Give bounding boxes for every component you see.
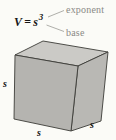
cube-diagram bbox=[0, 0, 116, 140]
exponent-connector-line bbox=[48, 11, 64, 18]
volume-of-cube-figure: V=s3 exponent base s s s bbox=[0, 0, 116, 140]
cube-front-face bbox=[14, 55, 78, 131]
side-label-bottom: s bbox=[37, 128, 41, 138]
base-connector-line bbox=[47, 25, 65, 32]
side-label-left: s bbox=[3, 79, 7, 89]
side-label-right: s bbox=[90, 120, 94, 130]
